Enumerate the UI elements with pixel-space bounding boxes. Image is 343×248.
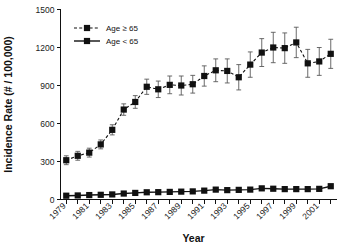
data-point-marker [316,186,322,192]
x-tick-label: 1995 [231,201,252,222]
data-point-marker [167,189,173,195]
data-point-marker [201,73,207,79]
data-point-marker [305,60,311,66]
data-point-marker [144,84,150,90]
x-tick-label: 1987 [139,201,160,222]
legend-marker-2 [84,38,90,44]
y-tick-label: 600 [40,119,54,129]
data-point-marker [121,190,127,196]
data-point-marker [63,157,69,163]
data-point-marker [305,186,311,192]
data-point-marker [121,106,127,112]
data-point-marker [247,62,253,68]
data-point-marker [224,68,230,74]
x-tick-label: 1991 [185,201,206,222]
data-point-marker [109,191,115,197]
data-point-marker [293,39,299,45]
data-point-marker [293,186,299,192]
series-line-1 [66,42,331,160]
data-point-marker [270,44,276,50]
data-point-marker [75,192,81,198]
data-point-marker [328,51,334,57]
data-point-marker [236,187,242,193]
x-tick-label: 1993 [208,201,229,222]
data-point-marker [282,45,288,51]
series-line-2 [66,186,331,196]
data-point-marker [144,189,150,195]
y-tick-label: 900 [40,81,54,91]
data-point-marker [316,58,322,64]
y-axis-title: Incidence Rate (# / 100,000) [2,36,14,173]
x-tick-label: 1989 [162,201,183,222]
data-point-marker [75,153,81,159]
data-point-marker [178,189,184,195]
data-point-marker [213,67,219,73]
chart-canvas: 0300600900120015001979198119831985198719… [0,0,343,248]
data-point-marker [201,188,207,194]
y-tick-label: 1200 [36,43,55,53]
data-point-marker [63,193,69,199]
data-point-marker [178,82,184,88]
legend-label-1: Age ≥ 65 [106,24,139,33]
x-axis-title: Year [182,232,204,244]
y-tick-label: 1500 [36,5,55,15]
x-tick-label: 1985 [116,201,137,222]
y-tick-label: 300 [40,157,54,167]
data-point-marker [190,81,196,87]
incidence-rate-chart: 0300600900120015001979198119831985198719… [0,0,343,248]
data-point-marker [86,150,92,156]
data-point-marker [155,189,161,195]
data-point-marker [213,187,219,193]
x-tick-label: 1983 [93,201,114,222]
data-point-marker [132,99,138,105]
data-point-marker [86,192,92,198]
legend-label-2: Age < 65 [106,37,139,46]
data-point-marker [282,186,288,192]
data-point-marker [190,188,196,194]
data-point-marker [109,127,115,133]
y-tick-label: 0 [50,195,55,205]
x-tick-label: 1981 [70,201,91,222]
data-point-marker [98,192,104,198]
data-point-marker [259,49,265,55]
data-point-marker [259,185,265,191]
x-tick-label: 1999 [277,201,298,222]
data-point-marker [132,190,138,196]
data-point-marker [247,187,253,193]
legend-marker-1 [84,25,90,31]
data-point-marker [98,141,104,147]
data-point-marker [167,82,173,88]
data-point-marker [224,187,230,193]
data-point-marker [236,74,242,80]
data-point-marker [270,186,276,192]
data-point-marker [155,86,161,92]
x-tick-label: 2001 [300,201,321,222]
x-tick-label: 1997 [254,201,275,222]
data-point-marker [328,183,334,189]
